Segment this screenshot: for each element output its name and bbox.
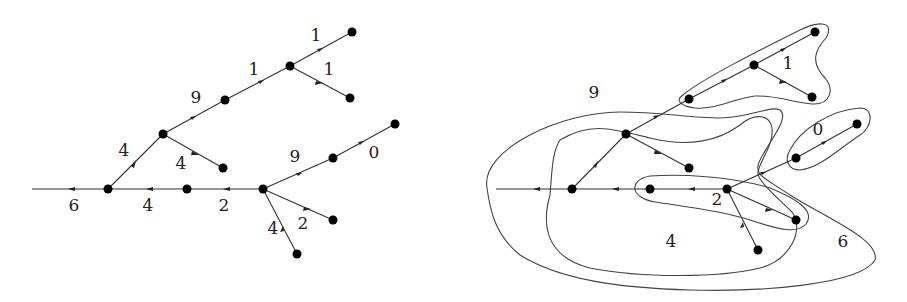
- edge-label: 1: [249, 59, 260, 79]
- edge-label: 9: [290, 146, 301, 166]
- left-tree-arrowheads: [68, 48, 364, 232]
- edge-label: 2: [298, 213, 309, 233]
- edge-label: 4: [176, 153, 187, 173]
- edge-label: 4: [143, 195, 154, 215]
- edge-label: 0: [369, 142, 380, 162]
- right-tree-nodes: [568, 28, 862, 255]
- region-label: 6: [838, 231, 849, 251]
- edge-label: 4: [268, 218, 279, 238]
- right-tree-edges: [496, 32, 857, 250]
- region-label: 9: [589, 82, 600, 102]
- region-label: 4: [666, 231, 677, 251]
- edge-label: 4: [119, 140, 130, 160]
- edge-label: 6: [69, 195, 80, 215]
- region-label: 1: [783, 53, 794, 73]
- edge-label: 1: [311, 25, 322, 45]
- right-tree-region-labels: 9 1 0 2 4 6: [589, 53, 849, 251]
- right-tree-arrowheads: [533, 48, 827, 228]
- region-label: 2: [712, 189, 723, 209]
- contour-0: [787, 108, 870, 170]
- left-tree-edge-labels: 6 4 2 4 4 9 1 1 1 9 0 2 4: [69, 25, 380, 238]
- edge-label: 9: [191, 87, 202, 107]
- edge-label: 1: [324, 59, 335, 79]
- left-tree-edges: [32, 32, 395, 254]
- region-label: 0: [813, 119, 824, 139]
- right-tree-contours: [487, 24, 876, 290]
- edge-label: 2: [219, 195, 230, 215]
- left-tree: 6 4 2 4 4 9 1 1 1 9 0 2 4: [32, 25, 400, 259]
- right-tree: 9 1 0 2 4 6: [487, 24, 876, 290]
- tree-diagrams: 6 4 2 4 4 9 1 1 1 9 0 2 4: [0, 0, 907, 302]
